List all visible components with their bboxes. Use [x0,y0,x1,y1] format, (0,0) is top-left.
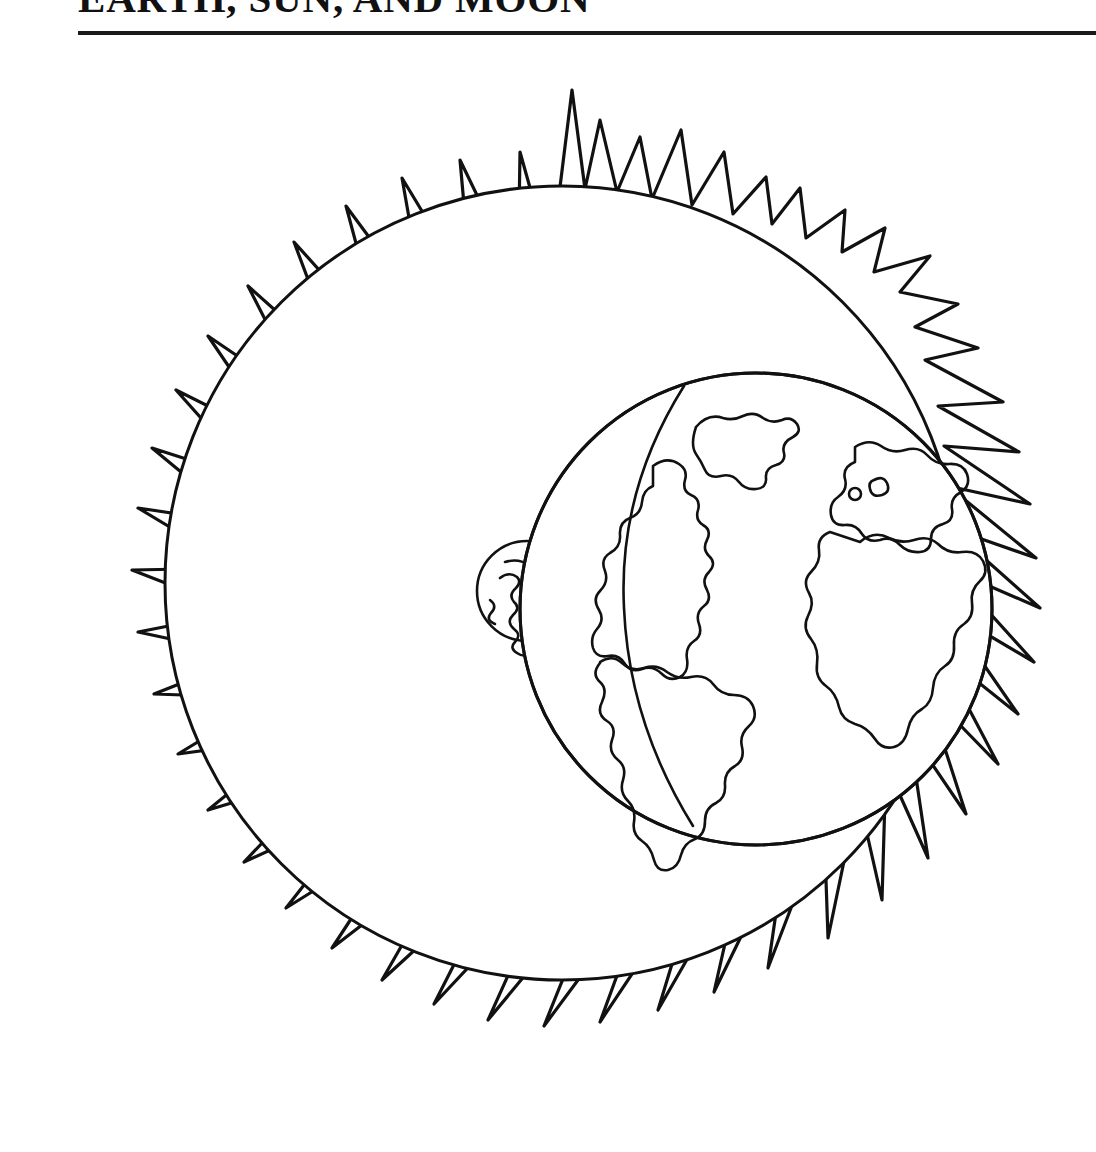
earth-circle [520,373,992,845]
illustration-earth-sun-moon [0,42,1096,1152]
page-title: EARTH, SUN, AND MOON [78,0,1078,21]
title-divider [78,31,1096,35]
page-header: EARTH, SUN, AND MOON [0,0,1096,42]
figure-canvas [0,42,1096,1152]
worksheet-page: EARTH, SUN, AND MOON [0,0,1096,1152]
